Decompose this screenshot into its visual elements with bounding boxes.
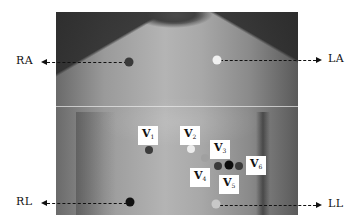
v3-label: V3 [210,140,230,159]
v6-label-main: V [250,157,259,170]
torso-photo [56,12,298,215]
scan-line [56,106,298,107]
la-arrow-icon [316,57,322,63]
ra-arrow-icon [41,59,47,65]
v2-label-sub: 2 [193,133,197,140]
v4-label-main: V [194,169,203,182]
v3-electrode [201,154,209,162]
rl-label: RL [16,195,33,208]
v1-label-main: V [142,127,151,140]
v5-label-sub: 5 [232,182,236,189]
neck-shadow [146,12,206,24]
v1-label-sub: 1 [151,133,155,140]
la-label: LA [328,52,344,65]
v6-electrode [235,162,243,170]
rl-electrode [126,198,135,207]
ll-electrode [212,200,221,209]
v1-electrode [145,146,153,154]
right-flank-shadow [76,112,116,215]
v6-label: V6 [246,156,266,175]
v4-label: V4 [190,168,210,187]
v3-label-main: V [214,141,223,154]
ll-lead-line [220,205,316,206]
v3-label-sub: 3 [223,147,227,154]
ll-label: LL [328,197,344,210]
v2-electrode [187,145,195,153]
v4-label-sub: 4 [203,175,207,182]
v5-label: V5 [219,175,239,194]
v6-label-sub: 6 [259,163,263,170]
v5-label-main: V [223,176,232,189]
ra-lead-line [47,62,127,63]
la-electrode [213,56,222,65]
v2-label-main: V [184,127,193,140]
ra-label: RA [16,54,33,67]
rl-arrow-icon [41,200,47,206]
v1-label: V1 [138,126,158,145]
rl-lead-line [47,203,127,204]
v5-electrode [225,161,234,170]
ra-electrode [125,58,134,67]
v4-electrode [214,162,222,170]
ll-arrow-icon [316,202,322,208]
la-lead-line [220,60,316,61]
v2-label: V2 [180,126,200,145]
